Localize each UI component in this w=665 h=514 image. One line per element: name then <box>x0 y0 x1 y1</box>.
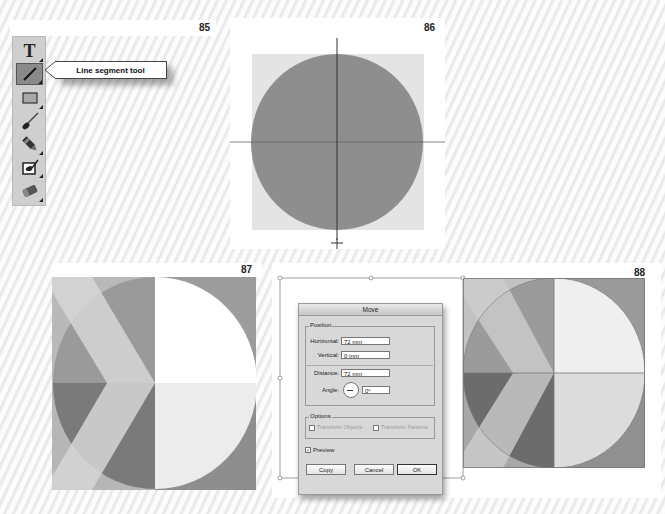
ok-button[interactable]: OK <box>397 464 437 475</box>
selection-handle <box>461 476 465 480</box>
eraser-tool[interactable] <box>16 180 43 202</box>
cancel-button[interactable]: Cancel <box>354 464 394 475</box>
pencil-icon <box>20 134 40 154</box>
figure-number: 87 <box>241 264 252 275</box>
vertical-label: Vertical: <box>303 352 339 358</box>
figure-87-artwork <box>52 277 256 490</box>
rectangle-tool[interactable] <box>16 87 43 109</box>
dialog-title: Move <box>299 304 442 316</box>
type-icon: T <box>23 41 35 62</box>
figure-number: 85 <box>199 22 210 33</box>
distance-input[interactable]: 72 mm <box>341 369 390 377</box>
distance-label: Distance: <box>303 370 339 376</box>
vertical-input[interactable]: 0 mm <box>341 351 390 359</box>
line-segment-icon <box>21 65 39 83</box>
submenu-indicator-icon <box>39 105 43 109</box>
rectangle-icon <box>21 90 39 106</box>
copy-button[interactable]: Copy <box>306 464 346 475</box>
transform-objects-label: Transform Objects <box>317 424 362 430</box>
selection-handle <box>278 376 282 380</box>
crosshair-cursor-icon <box>331 238 343 249</box>
transform-objects-checkbox[interactable] <box>309 425 315 431</box>
angle-dial[interactable] <box>343 382 359 398</box>
paintbrush-tool[interactable] <box>16 110 43 132</box>
figure-86-panel: 86 <box>230 18 445 249</box>
selection-handle <box>278 276 282 280</box>
submenu-indicator-icon <box>39 58 43 62</box>
shaper-icon <box>20 157 40 177</box>
preview-label: Preview <box>313 447 334 453</box>
figure-88-artwork <box>463 278 645 468</box>
angle-label: Angle: <box>303 387 339 393</box>
submenu-indicator-icon <box>39 151 43 155</box>
selection-handle <box>369 276 373 280</box>
submenu-indicator-icon <box>38 80 42 84</box>
transform-patterns-checkbox[interactable] <box>373 425 379 431</box>
divider <box>305 365 433 366</box>
angle-input[interactable]: 0° <box>362 386 390 394</box>
horizontal-input[interactable]: 72 mm <box>341 337 390 345</box>
tool-tooltip-callout: Line segment tool <box>55 61 167 79</box>
transform-patterns-label: Transform Patterns <box>381 424 428 430</box>
paintbrush-icon <box>20 111 40 131</box>
move-dialog: Move Position Horizontal: 72 mm Vertical… <box>298 303 443 495</box>
submenu-indicator-icon <box>39 198 43 202</box>
figure-87-label-strip: 87 <box>52 263 262 277</box>
line-segment-tool[interactable] <box>16 63 43 85</box>
figure-85-label-strip <box>10 20 216 36</box>
pencil-tool[interactable] <box>16 133 43 155</box>
shaper-tool[interactable] <box>16 156 43 178</box>
preview-checkbox[interactable]: ✓ <box>305 447 311 453</box>
eraser-icon <box>20 182 40 200</box>
options-group-label: Options <box>309 413 332 419</box>
submenu-indicator-icon <box>39 174 43 178</box>
circle-artwork <box>230 18 445 249</box>
position-group-label: Position <box>309 322 332 328</box>
type-tool[interactable]: T <box>16 40 43 62</box>
selection-handle <box>278 476 282 480</box>
horizontal-label: Horizontal: <box>303 338 339 344</box>
tools-panel: T <box>12 36 46 206</box>
